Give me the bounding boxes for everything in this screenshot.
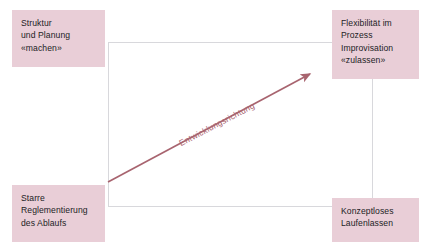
quadrant-box-top-left: Struktur und Planung «machen» (12, 10, 105, 67)
diagram-canvas: Struktur und Planung «machen» Flexibilit… (0, 0, 431, 252)
quadrant-box-bottom-left: Starre Reglementierung des Ablaufs (12, 185, 105, 242)
quadrant-box-top-right: Flexibilität im Prozess Improvisation «z… (332, 10, 419, 79)
quadrant-box-bottom-right: Konzeptloses Laufenlassen (332, 198, 419, 242)
